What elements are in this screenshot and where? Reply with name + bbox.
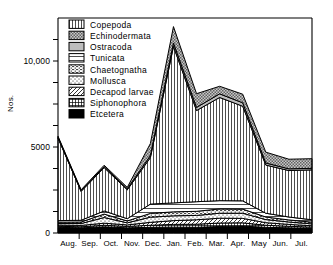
- y-tick-label: 0: [45, 228, 50, 238]
- y-tick-label: 5000: [31, 142, 50, 152]
- x-tick-label: Feb.: [187, 239, 203, 248]
- x-tick-label: Apr.: [231, 239, 246, 248]
- y-axis-ticks: [53, 40, 58, 234]
- x-tick-label: Jan.: [167, 239, 183, 248]
- x-tick-label: Oct.: [103, 239, 118, 248]
- legend-swatch-ostracoda: [69, 42, 84, 50]
- legend-swatch-chaetognatha: [69, 65, 84, 73]
- x-tick-label: Dec.: [145, 239, 162, 248]
- legend-swatch-tunicata: [69, 54, 84, 62]
- y-axis-title: Nos.: [6, 95, 15, 112]
- legend-swatch-echinodermata: [69, 31, 84, 39]
- y-axis-tick-labels: 0500010,000: [23, 56, 50, 238]
- legend-label-chaetognatha: Chaetognatha: [90, 65, 147, 75]
- legend-label-decapod-larvae: Decapod larvae: [90, 87, 154, 97]
- x-tick-label: Jul.: [295, 239, 308, 248]
- legend-label-mollusca: Mollusca: [90, 76, 126, 86]
- y-tick-label: 10,000: [23, 56, 50, 66]
- legend-label-tunicata: Tunicata: [90, 53, 125, 63]
- legend-label-echinodermata: Echinodermata: [90, 31, 151, 41]
- legend-label-ostracoda: Ostracoda: [90, 42, 132, 52]
- x-tick-label: Nov.: [124, 239, 140, 248]
- legend-label-copepoda: Copepoda: [90, 20, 132, 30]
- legend-label-siphonophora: Siphonophora: [90, 98, 147, 108]
- x-tick-label: Aug.: [60, 239, 77, 248]
- x-tick-label: Sep.: [81, 239, 98, 248]
- legend-label-etcetera: Etcetera: [90, 109, 124, 119]
- legend-swatch-etcetera: [69, 110, 84, 118]
- x-tick-label: Jun.: [272, 239, 288, 248]
- legend-swatch-siphonophora: [69, 98, 84, 106]
- chart-figure: Nos.: [0, 0, 333, 265]
- x-tick-label: Mar.: [209, 239, 225, 248]
- legend-swatch-mollusca: [69, 76, 84, 84]
- legend-swatch-copepoda: [69, 20, 84, 28]
- legend-swatch-decapod-larvae: [69, 87, 84, 95]
- stacked-area-chart: 0500010,000 Aug.Sep.Oct.Nov.Dec.Jan.Feb.…: [0, 0, 333, 265]
- x-tick-label: May: [251, 239, 266, 248]
- chart-legend: CopepodaEchinodermataOstracodaTunicataCh…: [69, 20, 154, 120]
- x-axis-tick-labels: Aug.Sep.Oct.Nov.Dec.Jan.Feb.Mar.Apr.MayJ…: [60, 239, 308, 248]
